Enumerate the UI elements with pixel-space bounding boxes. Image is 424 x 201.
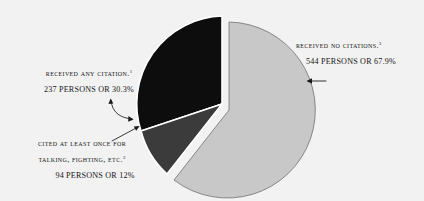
callout-no-citations-title: RECEIVED NO CITATIONS.3	[296, 38, 396, 54]
callout-any-citation-title: RECEIVED ANY CITATION.1	[22, 66, 156, 82]
callout-received-any-citation: RECEIVED ANY CITATION.1 237 PERSONS OR 3…	[22, 66, 156, 98]
footnote-marker-1: 1	[130, 69, 133, 74]
callout-received-no-citations: RECEIVED NO CITATIONS.3 544 PERSONS OR 6…	[296, 38, 396, 70]
callout-cited-once-text-2: TALKING, FIGHTING, ETC.	[39, 155, 123, 164]
callout-cited-once-title-line-2: TALKING, FIGHTING, ETC.2	[8, 152, 156, 168]
arrow-to-any-citation-slice	[108, 99, 133, 122]
pie-chart-figure: RECEIVED NO CITATIONS.3 544 PERSONS OR 6…	[0, 0, 424, 201]
footnote-marker-2: 2	[123, 155, 126, 160]
footnote-marker-3: 3	[379, 41, 382, 46]
callout-no-citations-text: RECEIVED NO CITATIONS.	[296, 41, 379, 50]
callout-any-citation-value: 237 PERSONS OR 30.3%	[22, 82, 156, 98]
callout-cited-at-least-once: CITED AT LEAST ONCE FOR TALKING, FIGHTIN…	[8, 136, 156, 184]
callout-any-citation-text: RECEIVED ANY CITATION.	[46, 69, 130, 78]
callout-cited-once-title-line-1: CITED AT LEAST ONCE FOR	[8, 136, 156, 152]
callout-cited-once-value: 94 PERSONS OR 12%	[8, 168, 156, 184]
callout-no-citations-value: 544 PERSONS OR 67.9%	[296, 54, 396, 70]
